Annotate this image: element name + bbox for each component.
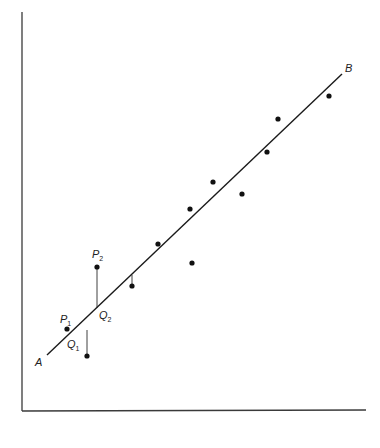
data-point-pt-4 <box>129 283 134 288</box>
data-point-pt-9 <box>239 191 244 196</box>
data-point-pt-6 <box>187 206 192 211</box>
label-p2: P2 <box>92 248 103 262</box>
data-point-pt-5 <box>155 241 160 246</box>
label-q1: Q1 <box>67 338 80 352</box>
label-p1-sub: 1 <box>67 320 71 327</box>
data-point-pt-10 <box>264 149 269 154</box>
label-p1: P1 <box>60 313 71 327</box>
data-point-P2 <box>94 264 99 269</box>
label-q2-sub: 2 <box>108 316 112 323</box>
label-b: B <box>345 62 352 74</box>
data-point-below-Q1 <box>84 353 89 358</box>
data-point-pt-12 <box>326 93 331 98</box>
label-q1-sub: 1 <box>76 345 80 352</box>
data-point-P1 <box>64 326 69 331</box>
label-a: A <box>34 356 42 368</box>
data-point-pt-8 <box>210 179 215 184</box>
data-point-pt-7 <box>189 260 194 265</box>
label-p2-sub: 2 <box>99 255 103 262</box>
x-axis <box>22 410 366 411</box>
label-q2: Q2 <box>99 309 112 323</box>
regression-line-ab <box>47 74 342 355</box>
data-point-pt-11 <box>275 116 280 121</box>
scatter-diagram: A B P1 Q1 P2 Q2 <box>0 0 380 448</box>
